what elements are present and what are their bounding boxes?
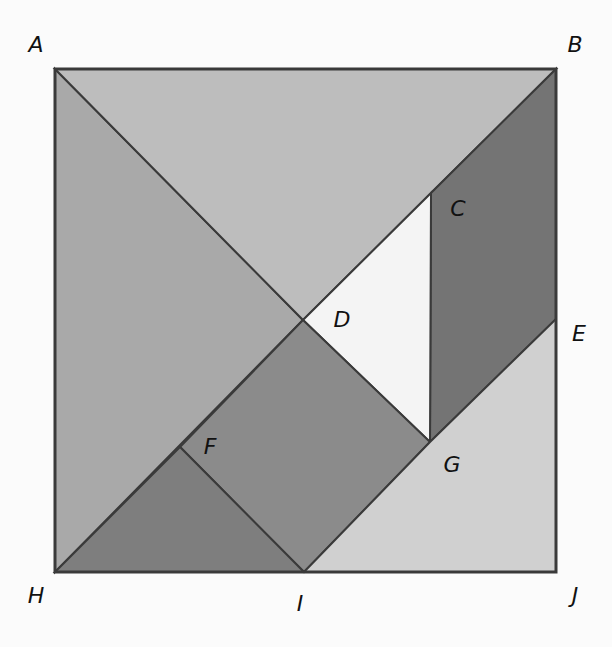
label-c: C	[450, 198, 465, 220]
label-b: B	[567, 34, 582, 56]
label-d: D	[334, 309, 351, 331]
label-h: H	[28, 585, 45, 607]
label-j: J	[572, 585, 579, 607]
label-e: E	[572, 323, 586, 345]
label-g: G	[443, 454, 460, 476]
tangram-diagram	[0, 0, 612, 647]
label-f: F	[204, 436, 217, 458]
label-i: I	[297, 593, 304, 615]
label-a: A	[28, 34, 43, 56]
